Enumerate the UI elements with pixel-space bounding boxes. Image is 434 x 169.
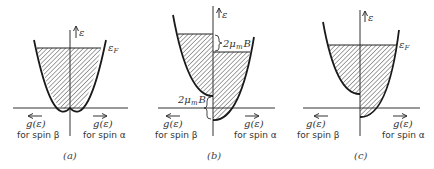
spin-alpha-label: for spin α	[83, 130, 126, 140]
spin-beta-label: for spin β	[297, 130, 340, 140]
upper-brace-icon	[215, 35, 222, 51]
energy-axis-label: ε	[79, 27, 84, 38]
spin-beta-label: for spin β	[17, 130, 60, 140]
spin-beta-label: for spin β	[155, 130, 198, 140]
fermi-level-label: εF	[399, 39, 410, 52]
spin-alpha-label: for spin α	[234, 130, 277, 140]
occupied-states-fill	[37, 48, 101, 109]
spin-beta-occupied-fill	[178, 34, 213, 96]
panel-caption: (b)	[207, 150, 221, 161]
energy-axis-label: ε	[368, 12, 373, 23]
spin-beta-occupied-fill	[328, 45, 360, 94]
spin-alpha-g-label: g(ε)	[93, 118, 113, 129]
panel-b: ε 2μmB 2μmB g(ε) for spin β g(ε) for spi…	[155, 6, 277, 161]
panel-caption: (c)	[354, 150, 368, 161]
spin-beta-g-label: g(ε)	[26, 118, 46, 129]
spin-beta-g-label: g(ε)	[163, 118, 183, 129]
spin-alpha-g-label: g(ε)	[393, 118, 413, 129]
panel-caption: (a)	[63, 150, 77, 161]
spin-alpha-label: for spin α	[382, 130, 425, 140]
energy-axis-label: ε	[222, 9, 227, 20]
spin-alpha-g-label: g(ε)	[244, 118, 264, 129]
spin-beta-g-label: g(ε)	[306, 118, 326, 129]
panel-a: ε εF g(ε) for spin β g(ε) for spin α (a)	[13, 26, 128, 161]
upper-gap-label: 2μmB	[222, 38, 251, 51]
fermi-level-label: εF	[108, 42, 119, 55]
spin-dos-diagram: ε εF g(ε) for spin β g(ε) for spin α (a)…	[0, 0, 434, 169]
panel-c: ε εF g(ε) for spin β g(ε) for spin α (c)	[297, 10, 425, 161]
lower-gap-label: 2μmB	[177, 94, 206, 107]
